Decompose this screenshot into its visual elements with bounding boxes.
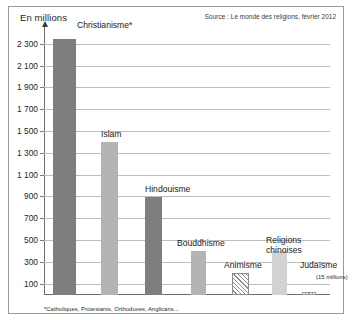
bar-judaisme[interactable] xyxy=(302,292,316,295)
gridline-2300 xyxy=(44,44,330,45)
bar-label-christianisme: Christianisme* xyxy=(77,21,132,31)
ytick-label-100: 100 xyxy=(24,279,38,289)
tick-900 xyxy=(40,196,44,197)
tick-1900 xyxy=(40,87,44,88)
ytick-label-2300: 2 300 xyxy=(17,39,38,49)
tick-1500 xyxy=(40,131,44,132)
bar-label-animisme: Animisme xyxy=(224,261,262,271)
ytick-label-900: 900 xyxy=(24,191,38,201)
ytick-label-2100: 2 100 xyxy=(17,61,38,71)
gridline-100 xyxy=(44,284,330,285)
bar-annotation-judaisme: (15 millions) xyxy=(316,274,348,280)
tick-2300 xyxy=(40,44,44,45)
ytick-label-700: 700 xyxy=(24,213,38,223)
bar-label-religions-chinoises-line2: chinoises xyxy=(266,246,302,256)
gridline-1700 xyxy=(44,109,330,110)
bar-label-hindouisme: Hindouisme xyxy=(145,185,190,195)
bar-bouddhisme[interactable] xyxy=(191,251,206,295)
ytick-label-1300: 1 300 xyxy=(17,148,38,158)
gridline-1500 xyxy=(44,131,330,132)
gridline-1300 xyxy=(44,153,330,154)
tick-500 xyxy=(40,240,44,241)
bar-label-bouddhisme: Bouddhisme xyxy=(177,239,225,249)
ytick-label-1900: 1 900 xyxy=(17,82,38,92)
gridline-1900 xyxy=(44,87,330,88)
ytick-label-300: 300 xyxy=(24,257,38,267)
tick-2100 xyxy=(40,66,44,67)
y-axis-arrow-icon xyxy=(42,21,48,27)
bar-islam[interactable] xyxy=(101,142,118,295)
bar-christianisme[interactable] xyxy=(53,39,76,296)
ytick-label-500: 500 xyxy=(24,235,38,245)
source-label: Source : Le monde des religions, février… xyxy=(205,13,336,20)
ytick-label-1500: 1 500 xyxy=(17,126,38,136)
tick-1100 xyxy=(40,175,44,176)
tick-300 xyxy=(40,262,44,263)
gridline-1100 xyxy=(44,175,330,176)
x-axis-baseline xyxy=(44,294,330,295)
ytick-label-1700: 1 700 xyxy=(17,104,38,114)
bar-animisme[interactable] xyxy=(232,273,249,295)
ytick-label-1100: 1 100 xyxy=(17,170,38,180)
tick-700 xyxy=(40,218,44,219)
bar-label-judaisme: Judaïsme xyxy=(300,261,337,271)
footnote: *Catholiques, Protestants, Orthodoxes, A… xyxy=(44,306,179,312)
gridline-2100 xyxy=(44,66,330,67)
gridline-700 xyxy=(44,218,330,219)
tick-1700 xyxy=(40,109,44,110)
bar-religions-chinoises[interactable] xyxy=(272,251,287,295)
bar-label-islam: Islam xyxy=(101,130,122,140)
tick-100 xyxy=(40,284,44,285)
bar-hindouisme[interactable] xyxy=(145,197,162,295)
figure-container: En millions Source : Le monde des religi… xyxy=(0,0,352,320)
tick-1300 xyxy=(40,153,44,154)
gridline-900 xyxy=(44,196,330,197)
plot-area: 2 300 2 100 1 900 1 700 1 500 1 300 1 xyxy=(44,33,330,295)
gridline-300 xyxy=(44,262,330,263)
